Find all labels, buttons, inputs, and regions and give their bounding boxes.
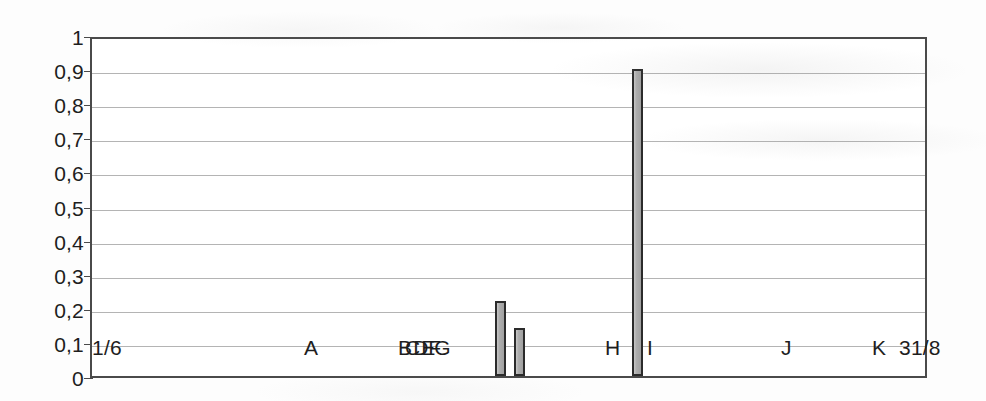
x-label-event-k: K [872,337,886,358]
y-tick-label: 0,7 [4,129,84,150]
gridline [92,141,925,142]
gridline [92,73,925,74]
x-label-event-j: J [781,337,792,358]
y-tick-label: 0,1 [4,334,84,355]
chart-page: 1 0,9 0,8 0,7 0,6 0,5 0,4 0,3 0,2 0,1 0 [0,0,986,401]
y-tick-label: 0,5 [4,198,84,219]
x-label-event-h: H [605,337,620,358]
bar[interactable] [495,301,506,376]
gridline [92,346,925,347]
y-tick-mark [84,378,93,379]
plot-area [90,37,927,378]
y-tick-label: 0 [4,368,84,389]
x-label-event-i: I [647,337,653,358]
y-axis: 1 0,9 0,8 0,7 0,6 0,5 0,4 0,3 0,2 0,1 0 [0,37,84,378]
x-label-event-cluster: BCDEFG [398,337,444,358]
y-tick-label: 0,2 [4,300,84,321]
gridline [92,107,925,108]
x-label-event-a: A [304,337,318,358]
gridline [92,278,925,279]
x-label-end-date: 31/8 [899,337,941,358]
gridline [92,210,925,211]
y-tick-label: 0,8 [4,95,84,116]
gridline [92,312,925,313]
y-tick-label: 0,9 [4,61,84,82]
gridline [92,175,925,176]
y-tick-label: 0,6 [4,163,84,184]
y-tick-label: 1 [4,27,84,48]
gridline [92,244,925,245]
x-label-start-date: 1/6 [92,337,122,358]
y-tick-label: 0,4 [4,232,84,253]
bar[interactable] [632,69,643,376]
y-tick-label: 0,3 [4,266,84,287]
bar[interactable] [514,328,525,376]
